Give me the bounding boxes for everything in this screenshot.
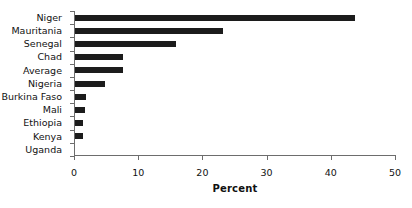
bar-ethiopia (75, 120, 83, 126)
x-axis-tick (138, 156, 139, 160)
bar-average (75, 67, 123, 73)
bar-row (75, 37, 396, 50)
x-axis-tick (267, 156, 268, 160)
bar-nigeria (75, 81, 105, 87)
x-axis-tick (74, 156, 75, 160)
x-axis-tick-label: 10 (132, 168, 144, 178)
x-axis-tick-label: 0 (71, 168, 77, 178)
y-axis-tick (70, 24, 74, 25)
bar-burkina-faso (75, 94, 86, 100)
y-axis-tick (70, 143, 74, 144)
x-axis-tick-label: 50 (389, 168, 401, 178)
y-axis-label-kenya: Kenya (0, 130, 66, 143)
x-axis-tick (202, 156, 203, 160)
bar-row (75, 77, 396, 90)
bar-row (75, 64, 396, 77)
y-axis-label-uganda: Uganda (0, 143, 66, 156)
y-axis-tick (70, 11, 74, 12)
bar-chart: Niger Mauritania Senegal Chad Average Ni… (0, 0, 412, 208)
y-axis-label-average: Average (0, 64, 66, 77)
y-axis-tick (70, 77, 74, 78)
y-axis-label-mauritania: Mauritania (0, 24, 66, 37)
y-axis-label-burkina-faso: Burkina Faso (0, 90, 66, 103)
y-axis-tick (70, 116, 74, 117)
x-axis-title: Percent (74, 183, 396, 194)
bar-row (75, 130, 396, 143)
x-axis-tick-label: 40 (325, 168, 337, 178)
y-axis-tick (70, 37, 74, 38)
bar-row (75, 143, 396, 156)
bar-row (75, 103, 396, 116)
y-axis-label-senegal: Senegal (0, 37, 66, 50)
y-axis-tick (70, 51, 74, 52)
x-axis-tick (395, 156, 396, 160)
bar-row (75, 51, 396, 64)
bar-row (75, 24, 396, 37)
bar-row (75, 11, 396, 24)
y-axis-tick (70, 90, 74, 91)
bar-series (75, 11, 396, 156)
bar-niger (75, 15, 355, 21)
plot-area: 01020304050 (74, 11, 396, 156)
bar-row (75, 117, 396, 130)
y-axis-label-ethiopia: Ethiopia (0, 117, 66, 130)
bar-mauritania (75, 28, 223, 34)
x-axis-tick-label: 20 (196, 168, 208, 178)
bar-chad (75, 54, 123, 60)
x-axis-tick-label: 30 (261, 168, 273, 178)
bar-mali (75, 107, 85, 113)
bar-row (75, 90, 396, 103)
bar-kenya (75, 133, 83, 139)
y-axis-category-labels: Niger Mauritania Senegal Chad Average Ni… (0, 11, 66, 156)
bar-senegal (75, 41, 176, 47)
y-axis-tick (70, 130, 74, 131)
y-axis-tick (70, 103, 74, 104)
y-axis-label-nigeria: Nigeria (0, 77, 66, 90)
y-axis-label-mali: Mali (0, 103, 66, 116)
y-axis-label-niger: Niger (0, 11, 66, 24)
x-axis-tick (331, 156, 332, 160)
y-axis-label-chad: Chad (0, 51, 66, 64)
y-axis-tick (70, 64, 74, 65)
